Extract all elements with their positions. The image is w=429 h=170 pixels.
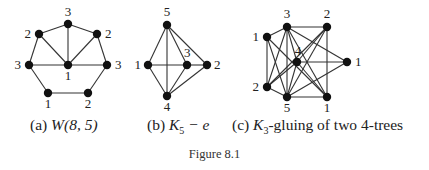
graph-edge: [167, 65, 207, 96]
graph-edge: [297, 62, 327, 97]
vertex-label: 4: [164, 99, 171, 114]
caption-a: (a) W(8, 5): [30, 116, 98, 134]
vertex-label: 3: [284, 6, 291, 21]
caption-a-math: W(8, 5): [51, 116, 98, 133]
graph-vertex: [203, 61, 211, 69]
vertex-label: 3: [184, 45, 191, 60]
vertex-label: 1: [324, 100, 331, 115]
graph-edge: [148, 25, 167, 65]
caption-b-tail: − e: [184, 116, 209, 133]
vertex-label: 3: [115, 57, 122, 72]
graph-edge: [148, 65, 167, 96]
figure-label: Figure 8.1: [0, 147, 429, 162]
vertex-label: 2: [105, 26, 112, 41]
graph-vertex: [183, 61, 191, 69]
graph-vertex: [25, 61, 33, 69]
vertex-label: 3: [15, 57, 22, 72]
vertex-label: 1: [65, 68, 72, 83]
vertex-label: 2: [25, 26, 32, 41]
graph-edge: [29, 65, 48, 93]
caption-c-tail: -gluing of two 4-trees: [268, 116, 403, 133]
graph-vertex: [163, 21, 171, 29]
graph-vertex: [323, 23, 331, 31]
graph-vertex: [103, 61, 111, 69]
vertex-label: 5: [164, 4, 171, 19]
graph-vertex: [93, 30, 101, 38]
vertex-label: 2: [324, 6, 331, 21]
graph-edge: [68, 24, 97, 34]
graph-vertex: [64, 20, 72, 28]
graph-edge: [39, 24, 68, 34]
figure-graphs: 32231312 51324 13241251: [0, 0, 429, 170]
graph-vertex: [263, 83, 271, 91]
vertex-label: 5: [284, 100, 291, 115]
vertex-label: 1: [45, 96, 52, 111]
graph-vertex: [144, 61, 152, 69]
caption-c-math: K: [253, 116, 263, 133]
caption-a-prefix: (a): [30, 116, 51, 133]
vertex-label: 2: [253, 79, 260, 94]
vertex-label: 1: [253, 29, 260, 44]
vertex-label: 2: [85, 96, 92, 111]
caption-c-prefix: (c): [232, 116, 253, 133]
graph-edge: [68, 34, 97, 65]
caption-b-math: K: [169, 116, 179, 133]
graph-edge: [39, 34, 68, 65]
graph-edge: [88, 65, 107, 93]
vertex-label: 4: [295, 43, 302, 58]
caption-b-prefix: (b): [147, 116, 169, 133]
vertex-label: 1: [355, 54, 362, 69]
graph-vertex: [35, 30, 43, 38]
caption-c: (c) K3-gluing of two 4-trees: [232, 116, 403, 136]
graph-edge: [167, 65, 187, 96]
graph-a-wheel: 32231312: [15, 4, 122, 111]
graph-vertex: [263, 33, 271, 41]
graph-vertex: [283, 23, 291, 31]
graph-b-k5-minus-e: 51324: [135, 4, 221, 114]
graph-vertex: [293, 58, 301, 66]
vertex-label: 1: [135, 57, 142, 72]
graph-c-k3-gluing: 13241251: [253, 6, 362, 115]
caption-b: (b) K5 − e: [147, 116, 209, 136]
vertex-label: 3: [65, 4, 72, 19]
graph-vertex: [343, 58, 351, 66]
vertex-label: 2: [214, 57, 221, 72]
